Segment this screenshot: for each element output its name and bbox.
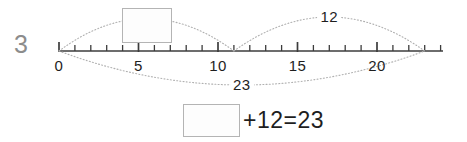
answer-box-on-number-line[interactable] — [122, 8, 172, 43]
equation-expression: +12=23 — [240, 109, 324, 132]
axis-label-10: 10 — [209, 58, 227, 73]
axis-label-15: 15 — [289, 58, 307, 73]
axis-label-0: 0 — [55, 58, 64, 73]
axis-label-20: 20 — [368, 58, 386, 73]
jump-total-label: 23 — [230, 77, 254, 92]
answer-box-in-equation[interactable] — [183, 104, 240, 137]
jump-twelve-label: 12 — [317, 9, 341, 24]
axis-label-5: 5 — [134, 58, 143, 73]
worksheet-problem: 3 05101520 1223 +12=23 — [0, 0, 467, 142]
